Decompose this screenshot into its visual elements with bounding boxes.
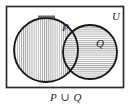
scan-smudge-artifact — [38, 16, 55, 19]
universal-set-label: U — [112, 10, 121, 22]
set-p-label: P — [61, 21, 69, 33]
venn-diagram-figure: P Q U P ∪ Q — [0, 0, 132, 112]
set-q-label: Q — [96, 37, 104, 49]
figure-caption: P ∪ Q — [0, 91, 132, 104]
